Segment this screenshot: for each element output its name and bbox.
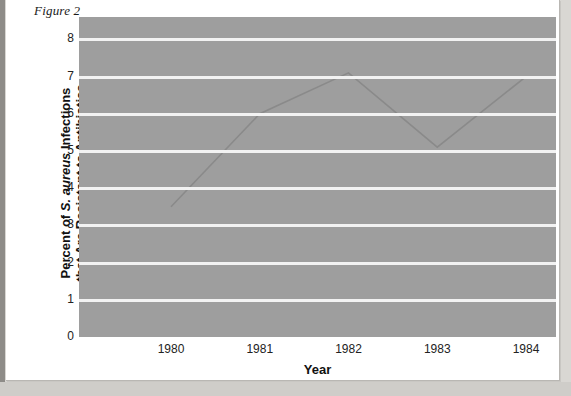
x-tick-label: 1984 [496,342,556,356]
gridline [79,299,556,302]
x-axis-tick-labels: 19801981198219831984 [79,342,556,362]
x-axis-line [79,337,556,340]
y-tick-label: 6 [50,106,74,120]
y-tick-label: 8 [50,31,74,45]
x-tick-label: 1981 [230,342,290,356]
y-tick-label: 1 [50,292,74,306]
x-axis-title: Year [79,362,556,377]
line-series-svg [79,17,556,337]
y-tick-label: 2 [50,255,74,269]
y-tick-label: 7 [50,69,74,83]
gridline [79,76,556,79]
gridline [79,150,556,153]
x-tick-label: 1983 [407,342,467,356]
gridline [79,113,556,116]
gridline [79,38,556,41]
page-gutter-strip [0,0,5,382]
chart-plot-area [79,17,556,337]
y-axis-tick-labels: 012345678 [46,0,74,396]
page-bottom-strip [0,382,571,396]
x-tick-label: 1982 [319,342,379,356]
y-tick-label: 0 [50,329,74,343]
y-tick-label: 4 [50,180,74,194]
x-tick-label: 1980 [141,342,201,356]
y-tick-label: 3 [50,217,74,231]
paper-sheet: Figure 2 Percent of S. aureus Infections… [6,0,560,381]
y-tick-label: 5 [50,143,74,157]
page-background: Figure 2 Percent of S. aureus Infections… [0,0,571,396]
gridline [79,187,556,190]
gridline [79,224,556,227]
gridline [79,262,556,265]
